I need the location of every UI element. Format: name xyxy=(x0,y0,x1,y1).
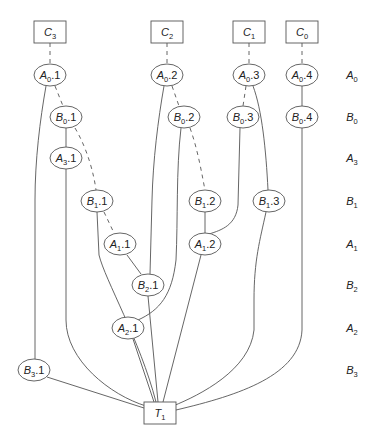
node-b1-3: B1.3 xyxy=(253,190,285,212)
edge-A1-2-to-T1 xyxy=(163,255,201,402)
edge-B0-2-to-B1-2 xyxy=(190,128,205,190)
row-labels: A0B0A3B1A1B2A2B3 xyxy=(345,69,358,379)
node-a1-2: A1.2 xyxy=(189,233,221,255)
edge-B3-1-to-T1 xyxy=(47,377,144,408)
row-label-a2: A2 xyxy=(345,322,358,337)
node-b0-1: B0.1 xyxy=(50,106,82,128)
edge-A2-1-to-T1 xyxy=(133,339,154,402)
node-b0-2: B0.2 xyxy=(168,106,200,128)
row-label-a3: A3 xyxy=(345,152,358,167)
node-a1-1: A1.1 xyxy=(104,233,136,255)
edge-A0-1-to-B0-1 xyxy=(55,86,63,106)
node-b0-4: B0.4 xyxy=(286,106,318,128)
edge-A0-3-to-B0-3 xyxy=(243,86,246,106)
node-a0-1: A0.1 xyxy=(34,64,66,86)
node-a0-4: A0.4 xyxy=(286,64,318,86)
edge-B0-3-to-A1-2 xyxy=(209,128,240,234)
node-a0-3: A0.3 xyxy=(233,64,265,86)
edge-A1-1-to-B2-1 xyxy=(127,255,141,274)
edge-A0-2-to-B0-2 xyxy=(172,86,179,106)
row-label-b0: B0 xyxy=(346,111,358,126)
node-b1-2: B1.2 xyxy=(189,190,221,212)
edge-B1-1-to-A1-1 xyxy=(104,212,114,233)
node-b2-1: B2.1 xyxy=(132,274,164,296)
node-c2: C2 xyxy=(151,21,183,43)
node-c0: C0 xyxy=(286,21,318,43)
row-label-b2: B2 xyxy=(346,279,358,294)
node-c3: C3 xyxy=(34,21,66,43)
edges-layer xyxy=(35,43,302,410)
node-c1: C1 xyxy=(233,21,265,43)
node-b3-1: B3.1 xyxy=(18,359,50,381)
edge-B2-1-to-T1 xyxy=(148,296,158,402)
edge-A0-2-to-B2-1 xyxy=(150,86,164,274)
nodes-layer: C3C2C1C0A0.1A0.2A0.3A0.4B0.1B0.2B0.3B0.4… xyxy=(18,21,318,424)
node-a3-1: A3.1 xyxy=(50,147,82,169)
row-label-b3: B3 xyxy=(346,364,358,379)
row-label-b1: B1 xyxy=(346,195,358,210)
node-b1-1: B1.1 xyxy=(81,190,113,212)
node-b0-3: B0.3 xyxy=(227,106,259,128)
node-a0-2: A0.2 xyxy=(151,64,183,86)
row-label-a0: A0 xyxy=(345,69,358,84)
row-label-a1: A1 xyxy=(345,238,358,253)
node-t1: T1 xyxy=(144,402,176,424)
node-a2-1: A2.1 xyxy=(112,317,144,339)
edge-A0-1-to-B3-1 xyxy=(35,86,46,359)
edge-A0-3-to-B1-3 xyxy=(253,86,268,190)
dependency-diagram: C3C2C1C0A0.1A0.2A0.3A0.4B0.1B0.2B0.3B0.4… xyxy=(0,0,383,439)
